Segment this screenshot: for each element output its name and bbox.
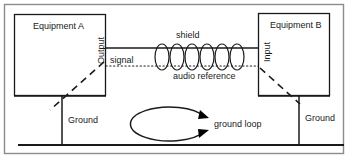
audio-reference-label: audio reference (173, 72, 236, 81)
equipment-b-ground-label: Ground (305, 114, 335, 123)
equipment-a-output-label: Output (97, 37, 106, 64)
equipment-a-ground-label: Ground (68, 116, 98, 125)
diagram-canvas: Equipment A Equipment B Output Input sig… (0, 0, 358, 162)
ground-loop-label: ground loop (214, 120, 262, 129)
equipment-a-title: Equipment A (33, 22, 84, 31)
ground-loop-arrowhead-lower (198, 129, 209, 138)
signal-label: signal (110, 56, 134, 65)
ground-loop-arrow (130, 107, 209, 141)
ground-loop-arrowhead-upper (198, 110, 209, 119)
equipment-b-input-label: Input (263, 42, 272, 62)
shield-label: shield (176, 31, 200, 40)
equipment-b-title: Equipment B (270, 21, 322, 30)
